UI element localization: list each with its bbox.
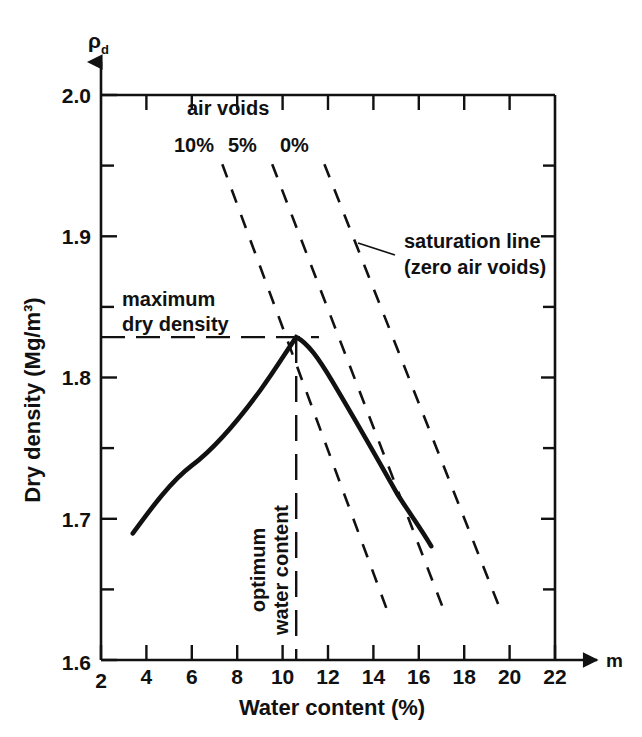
y-tick-label-1-9: 1.9 xyxy=(62,225,91,248)
x-tick-label-4: 4 xyxy=(141,665,153,688)
y-tick-label-1-7: 1.7 xyxy=(62,508,91,531)
y-tick-label-1-6: 1.6 xyxy=(62,651,91,674)
y-axis-symbol: ρ xyxy=(88,29,101,52)
x-tick-label-10: 10 xyxy=(271,665,294,688)
y-axis-major-ticks xyxy=(101,95,117,660)
x-tick-label-2: 2 xyxy=(95,669,107,692)
x-axis-tick-labels: 2 4 6 8 10 12 14 16 18 20 22 xyxy=(95,665,567,692)
y-axis-symbol-subscript: d xyxy=(101,42,109,57)
air-voids-0-label: 0% xyxy=(280,134,309,156)
x-tick-label-14: 14 xyxy=(362,665,386,688)
y-tick-label-1-8: 1.8 xyxy=(62,366,92,389)
air-voids-heading: air voids xyxy=(187,97,269,119)
x-axis-major-ticks xyxy=(101,645,555,660)
saturation-line-label-line2: (zero air voids) xyxy=(404,256,546,278)
compaction-curve-chart: ρ d m 2.0 1.9 1.8 1.7 1.6 2 4 6 8 10 12 … xyxy=(0,0,642,737)
x-tick-label-22: 22 xyxy=(543,665,566,688)
maximum-dry-density-label-line1: maximum xyxy=(122,288,215,310)
x-tick-label-6: 6 xyxy=(186,665,198,688)
optimum-water-content-label-line1: optimum xyxy=(247,528,269,612)
y-axis-symbol-group: ρ d xyxy=(88,29,109,57)
maximum-dry-density-label-line2: dry density xyxy=(122,313,230,335)
y-tick-label-2-0: 2.0 xyxy=(62,84,91,107)
saturation-line-leader xyxy=(358,243,395,255)
x-tick-label-16: 16 xyxy=(407,665,430,688)
y-axis-tick-labels: 2.0 1.9 1.8 1.7 1.6 xyxy=(62,84,92,674)
air-voids-10-label: 10% xyxy=(174,134,214,156)
x-tick-label-12: 12 xyxy=(316,665,339,688)
air-voids-5-label: 5% xyxy=(228,134,257,156)
x-axis-title: Water content (%) xyxy=(239,695,425,720)
x-tick-label-8: 8 xyxy=(231,665,243,688)
optimum-water-content-label-line2: water content xyxy=(270,505,292,636)
x-tick-label-20: 20 xyxy=(498,665,521,688)
saturation-line-label-line1: saturation line xyxy=(404,230,541,252)
x-tick-label-18: 18 xyxy=(453,665,477,688)
x-axis-symbol: m xyxy=(606,650,623,671)
y-axis-title: Dry density (Mg/m³) xyxy=(20,297,45,502)
y-axis-right-ticks xyxy=(541,166,555,590)
chart-svg: ρ d m 2.0 1.9 1.8 1.7 1.6 2 4 6 8 10 12 … xyxy=(0,0,642,737)
